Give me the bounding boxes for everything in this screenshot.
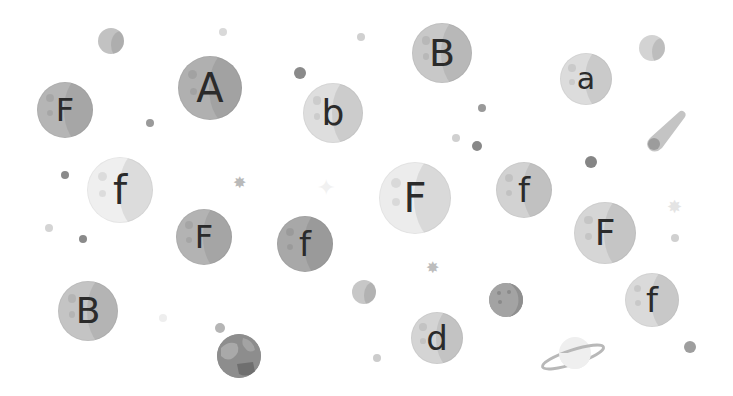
bubble-letter: f <box>646 283 658 317</box>
crater-decoration <box>391 178 401 188</box>
small-moon-icon <box>98 28 124 54</box>
letter-bubble-f[interactable]: f <box>87 157 153 223</box>
letter-bubble-a[interactable]: a <box>560 53 612 105</box>
crater-decoration <box>505 174 513 182</box>
bubble-letter: F <box>195 221 213 253</box>
crater-decoration <box>585 233 592 240</box>
letter-bubble-b[interactable]: b <box>303 83 363 143</box>
earth-planet-icon <box>217 334 261 378</box>
decorative-dot <box>452 134 460 142</box>
decorative-dot <box>357 33 365 41</box>
bubble-letter: F <box>595 215 616 251</box>
star-icon: ✸ <box>426 260 439 276</box>
crater-decoration <box>584 216 593 225</box>
letter-bubble-A[interactable]: A <box>178 56 242 120</box>
crater-decoration <box>47 110 53 116</box>
letter-bubble-f[interactable]: f <box>496 162 552 218</box>
bubble-letter: f <box>518 173 530 207</box>
decorative-dot <box>373 354 381 362</box>
crater-decoration <box>569 79 575 85</box>
letter-bubble-f[interactable]: f <box>277 216 333 272</box>
decorative-dot <box>159 314 167 322</box>
star-icon: ✸ <box>667 198 682 216</box>
game-scene: ✸✦✸✸FAbBafFfFfFBdf <box>0 0 733 396</box>
comet-icon <box>642 108 688 158</box>
bubble-letter: F <box>56 94 74 126</box>
decorative-dot <box>294 67 306 79</box>
letter-bubble-F[interactable]: F <box>379 162 451 234</box>
crater-decoration <box>634 285 642 293</box>
crater-decoration <box>69 311 76 318</box>
crater-decoration <box>568 64 575 71</box>
decorative-dot <box>215 323 225 333</box>
bubble-letter: B <box>429 34 455 72</box>
crater-decoration <box>314 113 321 120</box>
bubble-letter: B <box>76 293 101 329</box>
crater-decoration <box>392 198 400 206</box>
decorative-dot <box>219 28 227 36</box>
decorative-dot <box>79 235 87 243</box>
decorative-dot <box>671 234 679 242</box>
star-icon: ✦ <box>317 177 335 199</box>
letter-bubble-f[interactable]: f <box>625 273 679 327</box>
crater-decoration <box>287 244 293 250</box>
letter-bubble-B[interactable]: B <box>412 23 472 83</box>
crater-decoration <box>185 221 193 229</box>
letter-bubble-F[interactable]: F <box>574 202 636 264</box>
crater-decoration <box>98 172 107 181</box>
decorative-dot <box>478 104 486 112</box>
crater-decoration <box>99 190 106 197</box>
cratered-planet-icon <box>489 283 523 317</box>
bubble-letter: a <box>577 64 595 94</box>
crater-decoration <box>286 228 294 236</box>
bubble-letter: F <box>403 178 426 218</box>
gray-planet-icon <box>352 280 376 304</box>
decorative-dot <box>45 224 53 232</box>
letter-bubble-d[interactable]: d <box>411 312 463 364</box>
decorative-dot <box>472 141 482 151</box>
decorative-dot <box>61 171 69 179</box>
crater-decoration <box>46 94 54 102</box>
crater-decoration <box>186 237 192 243</box>
decorative-dot <box>585 156 597 168</box>
bubble-letter: d <box>426 321 448 355</box>
letter-bubble-F[interactable]: F <box>176 209 232 265</box>
saturn-planet-icon <box>539 333 607 381</box>
small-moon-right-icon <box>639 35 665 61</box>
decorative-dot <box>146 119 154 127</box>
crater-decoration <box>635 300 641 306</box>
crater-decoration <box>313 96 321 104</box>
decorative-dot <box>684 341 696 353</box>
bubble-letter: b <box>322 95 345 131</box>
crater-decoration <box>506 190 512 196</box>
letter-bubble-F[interactable]: F <box>37 82 93 138</box>
bubble-letter: f <box>299 227 311 261</box>
letter-bubble-B[interactable]: B <box>58 281 118 341</box>
star-icon: ✸ <box>233 175 246 191</box>
bubble-letter: f <box>113 170 127 210</box>
bubble-letter: A <box>196 68 223 108</box>
